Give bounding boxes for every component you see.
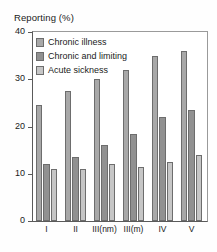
legend-item: Chronic and limiting xyxy=(36,50,127,62)
bar xyxy=(65,91,72,221)
bar-group xyxy=(181,32,202,221)
bar xyxy=(188,110,195,221)
x-axis-tick-label: IV xyxy=(158,224,166,234)
bar xyxy=(36,105,43,221)
bar xyxy=(43,164,50,221)
legend-label: Acute sickness xyxy=(48,65,108,75)
bar-chart: Reporting (%) 010203040 IIIIII(nm)III(m)… xyxy=(0,0,217,252)
y-axis: 010203040 xyxy=(0,31,32,222)
bar-group xyxy=(152,32,173,221)
y-axis-tick-label: 0 xyxy=(20,215,25,225)
bar xyxy=(181,51,188,221)
legend-item: Acute sickness xyxy=(36,64,127,76)
x-axis-tick-label: III(nm) xyxy=(92,224,117,234)
legend-label: Chronic and limiting xyxy=(48,51,127,61)
bar xyxy=(80,169,87,221)
x-axis-tick-label: III(m) xyxy=(124,224,144,234)
legend-item: Chronic illness xyxy=(36,36,127,48)
legend-swatch-icon xyxy=(36,52,44,61)
chart-title: Reporting (%) xyxy=(14,12,74,23)
y-axis-tick-label: 40 xyxy=(15,26,25,36)
legend-swatch-icon xyxy=(36,38,44,47)
bar xyxy=(72,157,79,221)
bar xyxy=(109,164,116,221)
x-axis-tick-label: I xyxy=(45,224,47,234)
bar xyxy=(94,79,101,221)
bar xyxy=(152,56,159,221)
legend-swatch-icon xyxy=(36,66,44,75)
bar xyxy=(159,117,166,221)
bar xyxy=(167,162,174,221)
bar xyxy=(138,167,145,221)
bar xyxy=(123,70,130,221)
bar xyxy=(51,169,58,221)
x-axis-tick-label: II xyxy=(73,224,78,234)
x-axis-tick-label: V xyxy=(189,224,195,234)
y-axis-tick-label: 20 xyxy=(15,121,25,131)
x-axis: IIIIII(nm)III(m)IVV xyxy=(33,224,207,240)
bar xyxy=(196,155,203,221)
bar xyxy=(130,134,137,221)
y-axis-tick-label: 10 xyxy=(15,168,25,178)
legend-label: Chronic illness xyxy=(48,37,107,47)
chart-legend: Chronic illnessChronic and limitingAcute… xyxy=(36,36,127,76)
bar xyxy=(101,145,108,221)
y-axis-tick-label: 30 xyxy=(15,73,25,83)
